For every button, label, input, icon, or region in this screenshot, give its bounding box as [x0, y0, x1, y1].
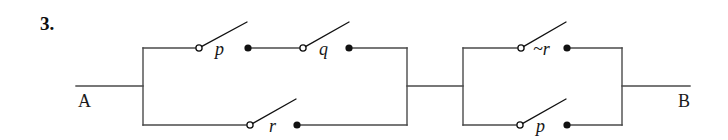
switch-arm-p[interactable] [201, 22, 247, 47]
switch-label-r: r [269, 117, 276, 135]
switch-pivot-q[interactable] [300, 45, 306, 51]
switch-contact-p [563, 121, 570, 128]
switch-group [196, 22, 571, 129]
switch-label-~r: ~r [533, 40, 550, 58]
switch-contact-~r [563, 44, 570, 51]
figure-canvas: 3. A B pqr~rp [0, 0, 728, 140]
wire-group [76, 48, 690, 125]
switch-contact-p [244, 44, 251, 51]
switch-label-p: p [215, 40, 224, 58]
switch-pivot-~r[interactable] [518, 45, 524, 51]
terminal-label-b: B [678, 92, 690, 110]
circuit-diagram [0, 0, 728, 140]
problem-number: 3. [40, 14, 54, 33]
terminal-label-a: A [78, 92, 91, 110]
switch-label-q: q [319, 40, 328, 58]
switch-pivot-p[interactable] [517, 122, 523, 128]
switch-contact-q [345, 44, 352, 51]
switch-contact-r [293, 121, 300, 128]
switch-pivot-p[interactable] [196, 45, 202, 51]
switch-label-p: p [536, 117, 545, 135]
switch-pivot-r[interactable] [247, 122, 253, 128]
